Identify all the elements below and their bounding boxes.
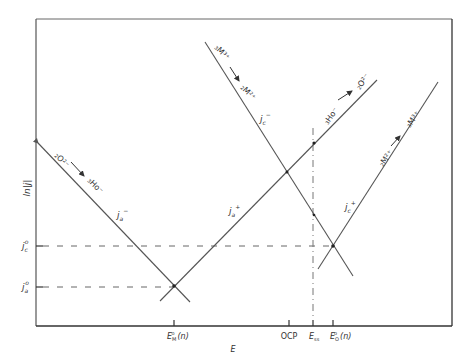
oxide-cathodic-reaction-to: 3Ho⁻ [86,176,105,195]
ja-minus-label: ja− [115,207,128,222]
em0-intersection-point [172,284,176,288]
tafel-lines [38,42,438,302]
x-tick-labels: EMo(n) OCP Ess EOo(n) [167,330,351,342]
metal-anodic-reaction-to: 3M³⁺ [404,110,421,130]
metal-anodic-reaction-from: 2M²⁺ [377,149,394,169]
jc0-tick-label: jco [20,238,29,253]
reference-lines [43,128,333,320]
oxide-cathodic-line [38,143,190,302]
metal-cathodic-line [205,42,353,276]
ocp-tick-label: OCP [281,332,298,341]
oxide-anodic-arrow-icon [338,91,352,100]
em0-tick-label: EMo(n) [167,330,189,342]
oxide-anodic-reaction-from: 3Ho⁻ [322,106,340,126]
reaction-arrows [71,67,400,176]
ess-upper-point [312,141,315,144]
jc-plus-label: jc+ [343,199,356,214]
eo0-tick-label: EOo(n) [330,330,351,342]
x-ticks [174,320,333,326]
ocp-intersection-point [286,171,289,174]
x-axis-label: E [230,345,236,354]
reaction-labels: 2O²⁻ 3Ho⁻ 3M³⁺ 2M²⁺ 3Ho⁻ 2O²⁻ [53,43,422,195]
y-ticks [36,246,43,287]
metal-anodic-arrow-icon [391,136,400,146]
intersection-points [172,141,335,287]
ja-plus-label: ja+ [227,203,240,218]
oxide-cathodic-reaction-from: 2O²⁻ [53,151,71,169]
eo0-intersection-point [331,244,335,248]
evans-diagram: 2O²⁻ 3Ho⁻ 3M³⁺ 2M²⁺ 3Ho⁻ 2O²⁻ [0,0,473,360]
plot-frame [36,19,452,326]
ess-tick-label: Ess [309,332,320,342]
ess-lower-point [313,214,316,217]
jc-minus-label: jc− [258,111,271,126]
ja0-tick-label: jao [20,279,29,294]
current-labels: ja− ja+ jc− jc+ [115,111,356,222]
y-axis-label: ln|j| [22,180,32,197]
oxide-cathodic-arrow-icon [71,162,84,176]
y-tick-labels: jco jao [20,238,29,294]
svg-text:ln|j|: ln|j| [22,180,32,197]
metal-cathodic-arrow-icon [230,67,239,81]
